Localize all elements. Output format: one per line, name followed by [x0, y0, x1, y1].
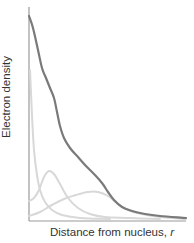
curve-total — [29, 16, 186, 218]
curve-3s — [29, 192, 186, 219]
x-axis-label: Distance from nucleus, r — [50, 226, 174, 238]
curve-2s — [29, 171, 160, 219]
x-axis-variable: r — [170, 226, 174, 238]
electron-density-chart — [0, 0, 194, 243]
series-group — [29, 16, 186, 219]
y-axis-label: Electron density — [0, 52, 14, 142]
x-axis-label-text: Distance from nucleus, — [50, 226, 170, 238]
